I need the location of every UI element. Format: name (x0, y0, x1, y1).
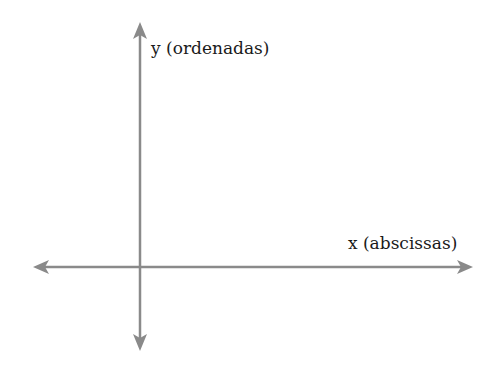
x-axis-label: x (abscissas) (348, 233, 457, 253)
x-axis (33, 260, 473, 274)
y-axis (133, 22, 147, 351)
y-axis-label: y (ordenadas) (151, 38, 269, 58)
